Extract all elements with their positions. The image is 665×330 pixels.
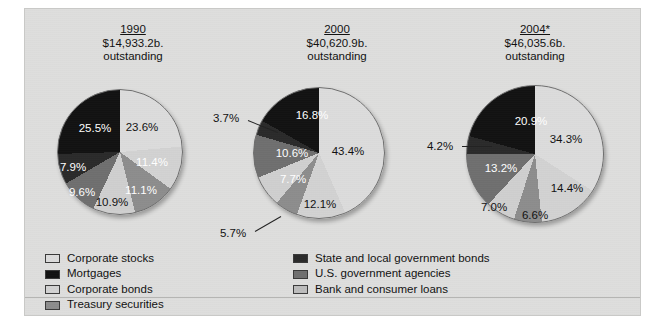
pie-chart-1990: 23.6% 11.4% 11.1% 10.9% 9.6% 7.9% 25.5% — [57, 89, 183, 215]
column-amount-1990: $14,933.2b. — [43, 37, 223, 51]
pie-1990-slice-corporate-bonds: 11.4% — [136, 156, 168, 168]
pie-2000-slice-bank-consumer-loans: 7.7% — [280, 173, 306, 185]
chart-panel: 1990 $14,933.2b. outstanding 2000 $40,62… — [24, 8, 641, 316]
legend-column-right: State and local government bonds U.S. go… — [293, 252, 490, 299]
cropped-title-ghost — [150, 0, 154, 5]
column-status-2000: outstanding — [247, 50, 427, 64]
column-amount-2000: $40,620.9b. — [247, 37, 427, 51]
pie-2000-slice-us-govt-agencies: 10.6% — [276, 147, 309, 159]
legend-bottom-rule — [25, 297, 640, 298]
legend-label-mortgages: Mortgages — [67, 268, 121, 280]
legend-item-bank-consumer-loans: Bank and consumer loans — [293, 283, 490, 296]
pie-2004-slice-bank-consumer-loans: 7.0% — [481, 201, 507, 213]
legend-swatch-bank-consumer-loans — [293, 285, 308, 294]
legend-swatch-us-govt-agencies — [293, 270, 308, 279]
legend-swatch-mortgages — [45, 270, 60, 279]
pie-2000-callout-state-local-bonds: 3.7% — [213, 112, 239, 124]
pie-2004-callout-state-local-bonds: 4.2% — [427, 140, 453, 152]
legend-label-treasury-securities: Treasury securities — [67, 299, 164, 311]
pie-2000-leader-treasury-securities — [255, 216, 281, 232]
legend-item-mortgages: Mortgages — [45, 268, 164, 281]
legend-swatch-state-local-bonds — [293, 254, 308, 263]
column-header-1990: 1990 $14,933.2b. outstanding — [43, 23, 223, 64]
column-status-2004: outstanding — [445, 50, 625, 64]
legend-column-left: Corporate stocks Mortgages Corporate bon… — [45, 252, 164, 314]
legend: Corporate stocks Mortgages Corporate bon… — [45, 252, 625, 300]
pie-2004-slice-corporate-bonds: 14.4% — [551, 182, 584, 194]
legend-item-corporate-stocks: Corporate stocks — [45, 252, 164, 265]
column-year-2004: 2004* — [445, 23, 625, 37]
legend-swatch-treasury-securities — [45, 301, 60, 310]
pie-1990-slice-bank-consumer-loans: 10.9% — [96, 196, 129, 208]
pie-2004-slice-us-govt-agencies: 13.2% — [485, 162, 518, 174]
pie-1990-slice-mortgages: 25.5% — [79, 122, 112, 134]
pie-chart-2000: 43.4% 12.1% 10.6% 7.7% 16.8% 3.7% 5.7% — [253, 87, 385, 219]
column-amount-2004: $46,035.6b. — [445, 37, 625, 51]
cropped-title-remnant — [0, 0, 665, 8]
pie-2004-slice-mortgages: 20.9% — [515, 115, 548, 127]
column-header-2004: 2004* $46,035.6b. outstanding — [445, 23, 625, 64]
pie-1990-slice-treasury-securities: 11.1% — [125, 184, 157, 196]
legend-item-state-local-bonds: State and local government bonds — [293, 252, 490, 265]
figure-root: 1990 $14,933.2b. outstanding 2000 $40,62… — [0, 0, 665, 330]
pie-2000-slice-corporate-bonds: 12.1% — [304, 198, 337, 210]
pie-1990-slice-us-govt-agencies: 9.6% — [69, 186, 95, 198]
column-year-1990: 1990 — [43, 23, 223, 37]
column-header-2000: 2000 $40,620.9b. outstanding — [247, 23, 427, 64]
pie-2000-slice-mortgages: 16.8% — [296, 109, 329, 121]
column-year-2000: 2000 — [247, 23, 427, 37]
legend-label-bank-consumer-loans: Bank and consumer loans — [315, 284, 448, 296]
legend-label-corporate-stocks: Corporate stocks — [67, 253, 154, 265]
legend-swatch-corporate-bonds — [45, 285, 60, 294]
pie-1990-slice-corporate-stocks: 23.6% — [126, 121, 159, 133]
legend-item-corporate-bonds: Corporate bonds — [45, 283, 164, 296]
pie-2004-leader-state-local-bonds — [462, 146, 492, 147]
legend-label-corporate-bonds: Corporate bonds — [67, 284, 153, 296]
pie-2004-slice-treasury-securities: 6.6% — [522, 209, 548, 221]
pie-2000-slice-corporate-stocks: 43.4% — [332, 145, 365, 157]
legend-label-us-govt-agencies: U.S. government agencies — [315, 268, 451, 280]
column-status-1990: outstanding — [43, 50, 223, 64]
legend-item-treasury-securities: Treasury securities — [45, 299, 164, 312]
pie-2004-slice-corporate-stocks: 34.3% — [550, 133, 583, 145]
pie-1990-slice-state-local-bonds: 7.9% — [60, 161, 86, 173]
pie-chart-2004: 34.3% 14.4% 6.6% 7.0% 13.2% 20.9% 4.2% — [466, 85, 604, 223]
legend-swatch-corporate-stocks — [45, 254, 60, 263]
pie-2000-callout-treasury-securities: 5.7% — [220, 227, 246, 239]
legend-item-us-govt-agencies: U.S. government agencies — [293, 268, 490, 281]
legend-label-state-local-bonds: State and local government bonds — [315, 253, 490, 265]
